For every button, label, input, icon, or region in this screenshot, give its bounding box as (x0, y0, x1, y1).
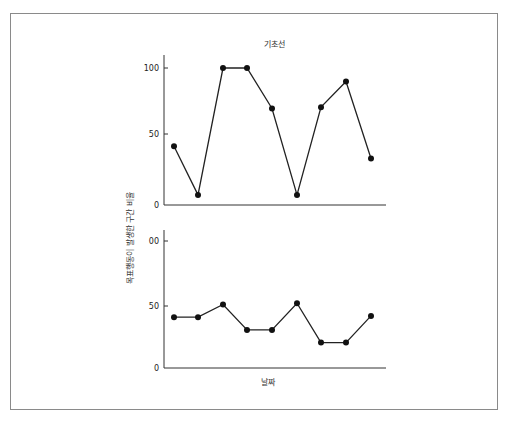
top-tick-label-0: 0 (154, 201, 159, 210)
data-point (269, 327, 275, 333)
data-point (244, 65, 250, 71)
data-point (368, 155, 374, 161)
series-line (174, 303, 371, 342)
bottom-tick-label-50: 50 (149, 302, 159, 311)
data-point (171, 143, 177, 149)
data-point (220, 302, 226, 308)
data-point (244, 327, 250, 333)
chart-area: 기초선 100 50 0 00 50 0 날짜 목표행동이 발생한 구간 비율 (0, 0, 507, 421)
data-point (318, 104, 324, 110)
data-point (195, 192, 201, 198)
data-point (269, 106, 275, 112)
top-axes (164, 55, 386, 205)
series-line (174, 68, 371, 195)
bottom-series (171, 300, 374, 345)
data-point (220, 65, 226, 71)
top-tick-label-100: 100 (144, 64, 159, 73)
data-point (294, 300, 300, 306)
top-tick-label-50: 50 (149, 130, 159, 139)
bottom-tick-label-100: 00 (149, 237, 159, 246)
top-chart-title: 기초선 (264, 40, 285, 49)
data-point (368, 313, 374, 319)
bottom-axes (164, 230, 386, 368)
bottom-tick-label-0: 0 (154, 364, 159, 373)
data-point (343, 340, 349, 346)
data-point (294, 192, 300, 198)
y-axis-label: 목표행동이 발생한 구간 비율 (125, 192, 135, 284)
top-series (171, 65, 374, 198)
data-point (195, 314, 201, 320)
x-axis-label: 날짜 (261, 377, 276, 387)
data-point (318, 340, 324, 346)
data-point (171, 314, 177, 320)
data-point (343, 79, 349, 85)
